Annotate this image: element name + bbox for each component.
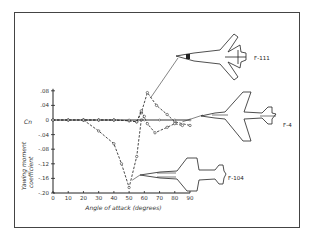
x-tick-label: 30	[95, 195, 102, 201]
f4-silhouette-icon	[201, 92, 276, 141]
x-tick-label: 80	[171, 195, 178, 201]
y-tick-label: .08	[40, 88, 49, 94]
f111-label: F-111	[254, 55, 270, 61]
f104-label: F-104	[228, 175, 244, 181]
f4-leader-line	[182, 115, 203, 122]
x-tick-label: 20	[80, 195, 87, 201]
y-tick-label: -.20	[38, 190, 49, 196]
yawing-moment-chart: .08.040-.04-.08-.12-.16-.200102030405060…	[0, 0, 314, 238]
x-axis-label: Angle of attack (degrees)	[84, 204, 161, 212]
y-tick-label: -.16	[38, 175, 49, 181]
x-tick-label: 10	[65, 195, 72, 201]
series-f-4	[53, 111, 182, 133]
x-tick-label: 70	[156, 195, 163, 201]
cn-symbol: Cn	[24, 118, 32, 125]
x-tick-label: 0	[51, 195, 55, 201]
f104-silhouette-icon	[140, 158, 226, 191]
f111-silhouette-icon	[176, 34, 246, 80]
y-tick-label: -.04	[38, 132, 49, 138]
y-tick-label: -.08	[38, 146, 49, 152]
f111-leader-line	[150, 58, 178, 98]
y-tick-label: -.12	[38, 161, 49, 167]
series-f-104	[83, 116, 144, 187]
x-tick-label: 60	[141, 195, 148, 201]
x-tick-label: 40	[110, 195, 117, 201]
f4-label: F-4	[283, 122, 292, 128]
f104-leader-line	[132, 175, 140, 180]
x-tick-label: 90	[187, 195, 194, 201]
x-tick-label: 50	[126, 195, 133, 201]
y-axis-label-2: coefficient	[27, 156, 34, 188]
y-tick-label: .04	[40, 102, 49, 108]
y-tick-label: 0	[46, 117, 50, 123]
